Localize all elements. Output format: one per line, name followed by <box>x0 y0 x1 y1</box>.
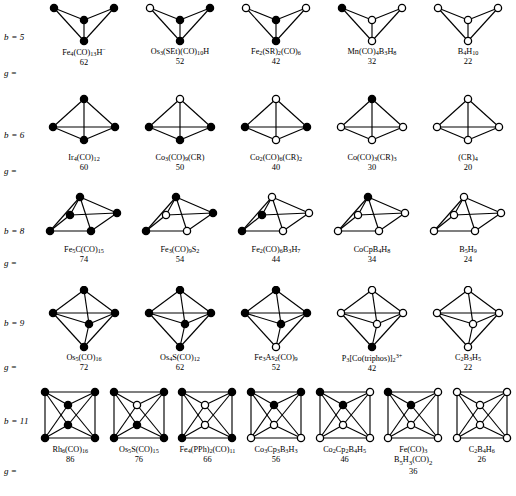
vertex-left-base <box>49 123 56 130</box>
vertex-front-eq <box>85 320 92 327</box>
vertex-right-base <box>303 123 310 130</box>
cluster-formula: Fe3(CO)9S2 <box>161 245 200 255</box>
vertex-top-left <box>453 388 460 395</box>
row-label-g: g = <box>4 362 17 372</box>
cluster-formula: Ir4(CO)12 <box>68 153 100 163</box>
row-label-b: b = 5 <box>4 32 25 42</box>
vertex-center-lower <box>133 421 140 428</box>
cluster-structure-diagram <box>334 94 410 152</box>
vertex-center-lower <box>202 421 209 428</box>
vertex-left-eq <box>337 309 344 316</box>
vertex-left-wing <box>434 4 441 11</box>
cluster-polyhedron-tetrahedron <box>334 94 410 152</box>
cluster-structure-diagram <box>381 386 445 444</box>
vertex-front-eq <box>277 320 284 327</box>
vertex-front-left <box>238 227 245 234</box>
cluster-formula: Co(CO)3(CR)3 <box>348 153 397 163</box>
vertex-center-upper <box>270 401 277 408</box>
vertex-front-right <box>279 227 286 234</box>
cluster-structure-diagram <box>139 192 221 244</box>
vertex-bottom-right <box>503 434 510 441</box>
cluster-formula: Fe2(CO)6B3H7 <box>252 245 301 255</box>
cluster-structure-diagram <box>142 94 218 152</box>
vertex-bottom-right <box>435 434 442 441</box>
vertex-front-left <box>142 227 149 234</box>
cluster-structure-diagram <box>46 0 122 46</box>
vertex-top-right <box>366 388 373 395</box>
cluster-formula: Rh6(CO)16 <box>52 445 88 455</box>
cluster-polyhedron-octahedron <box>244 386 308 444</box>
row-label-g: g = <box>4 466 17 476</box>
cluster-entry: Fe3(CO)9S254 <box>132 192 228 265</box>
cluster-formula: B4H10 <box>458 47 479 57</box>
cluster-formula: Fe(CO)3 <box>399 445 427 455</box>
cluster-structure-diagram <box>142 0 218 46</box>
vertex-back-left <box>258 211 265 218</box>
vertex-bottom-left <box>110 434 117 441</box>
vertex-apex <box>460 193 467 200</box>
vertex-top-right <box>160 388 167 395</box>
cluster-structure-diagram <box>238 286 314 352</box>
vertex-right-base <box>495 123 502 130</box>
electron-count: 66 <box>203 455 211 465</box>
electron-count: 42 <box>272 57 280 67</box>
cluster-formula: P3[Co(triphos)]23+ <box>342 353 403 364</box>
cluster-structure-diagram <box>235 192 317 244</box>
vertex-apex <box>464 95 471 102</box>
cluster-entry: C2B4H626 <box>447 386 516 476</box>
cluster-formula: Co3Cp3B3H3 <box>255 445 298 455</box>
vertex-bottom-left <box>453 434 460 441</box>
cluster-polyhedron-square-pyramid <box>331 192 413 244</box>
cluster-formula: Co2(CO)6(CR)2 <box>250 153 302 163</box>
vertex-bottom-left <box>316 434 323 441</box>
vertex-left-base <box>145 123 152 130</box>
row-cells: Ir4(CO)1260Co3(CO)9(CR)50Co2(CO)6(CR)240… <box>36 94 516 173</box>
cluster-structure-diagram <box>175 386 239 444</box>
electron-count: 22 <box>464 363 472 373</box>
vertex-bottom-left <box>42 434 49 441</box>
cluster-entry: Co3Cp3B3H356 <box>242 386 311 476</box>
vertex-bottom-hinge <box>272 37 279 44</box>
cluster-polyhedron-tetrahedron <box>46 94 122 152</box>
vertex-top-axial <box>176 286 183 293</box>
vertex-apex <box>80 95 87 102</box>
cluster-structure-diagram <box>427 192 509 244</box>
vertex-bottom-axial <box>80 343 87 350</box>
vertex-center-upper <box>202 401 209 408</box>
vertex-bottom-right <box>297 434 304 441</box>
cluster-structure-diagram <box>238 0 314 46</box>
vertex-back-left <box>450 211 457 218</box>
cluster-polyhedron-square-pyramid <box>139 192 221 244</box>
vertex-back-right <box>401 209 408 216</box>
electron-count: 52 <box>272 363 280 373</box>
vertex-front-base <box>272 136 279 143</box>
vertex-center-upper <box>133 401 140 408</box>
cluster-formula: Fe3As2(CO)9 <box>254 353 297 363</box>
cluster-entry: C2B3H522 <box>420 286 516 374</box>
cluster-entry: Co2(CO)6(CR)240 <box>228 94 324 173</box>
vertex-top-axial <box>80 286 87 293</box>
vertex-bottom-right <box>229 434 236 441</box>
cluster-entry: (CR)420 <box>420 94 516 173</box>
vertex-center-upper <box>476 401 483 408</box>
vertex-front-right <box>183 227 190 234</box>
vertex-apex <box>364 193 371 200</box>
vertex-top-axial <box>272 286 279 293</box>
table-row: b = 8 g = Fe5C(CO)1574Fe3(CO)9S254Fe2(CO… <box>0 192 516 286</box>
cluster-geometry-figure: b = 5 g = Fe4(CO)13H−62Os3(SEt)(CO)10H52… <box>0 0 516 496</box>
cluster-structure-diagram <box>430 286 506 352</box>
vertex-bottom-axial <box>176 343 183 350</box>
cluster-polyhedron-butterfly <box>430 0 506 46</box>
cluster-entry: Rh6(CO)1686 <box>36 386 105 476</box>
row-cells: Fe4(CO)13H−62Os3(SEt)(CO)10H52Fe2(SR)2(C… <box>36 0 516 68</box>
row-cells: Os5(CO)1672Os4S(CO)1262Fe3As2(CO)952P3[C… <box>36 286 516 374</box>
electron-count: 46 <box>340 455 348 465</box>
cluster-structure-diagram <box>43 192 125 244</box>
electron-count: 62 <box>80 58 88 68</box>
cluster-structure-diagram <box>334 0 410 46</box>
vertex-back-right <box>497 209 504 216</box>
vertex-bottom-axial <box>272 343 279 350</box>
vertex-left-wing <box>338 4 345 11</box>
row-cells: Rh6(CO)1686Os5S(CO)1576Fe4(PPh)2(CO)1166… <box>36 386 516 476</box>
cluster-polyhedron-trigonal-bipyramid <box>142 286 218 352</box>
